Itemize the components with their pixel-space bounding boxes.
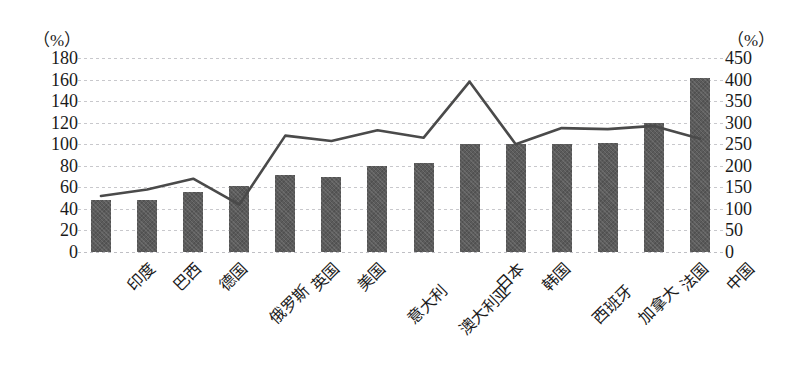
plot-area	[78, 58, 723, 252]
axis-tick-label: 0	[725, 243, 734, 261]
category-label: 俄罗斯	[267, 282, 312, 327]
right-axis-ticks: 450400350300250200150100500	[725, 0, 771, 370]
category-axis-labels: 印度巴西德国俄罗斯英国美国意大利澳大利亚日本韩国西班牙加拿大法国中国	[78, 252, 723, 370]
axis-tick-label: 250	[725, 135, 752, 153]
axis-tick-label: 40	[60, 200, 78, 218]
category-label: 加拿大	[636, 282, 681, 327]
axis-tick-label: 100	[725, 200, 752, 218]
axis-tick-label: 300	[725, 114, 752, 132]
line-series	[78, 58, 723, 252]
axis-tick-label: 100	[51, 135, 78, 153]
axis-tick-label: 0	[69, 243, 78, 261]
axis-tick-label: 160	[51, 71, 78, 89]
axis-tick-label: 350	[725, 92, 752, 110]
category-label: 印度	[124, 260, 158, 294]
axis-tick-label: 180	[51, 49, 78, 67]
axis-tick-label: 20	[60, 221, 78, 239]
category-label: 西班牙	[590, 282, 635, 327]
axis-tick-label: 120	[51, 114, 78, 132]
axis-tick-label: 450	[725, 49, 752, 67]
axis-tick-label: 80	[60, 157, 78, 175]
category-label: 德国	[217, 260, 251, 294]
axis-tick-label: 200	[725, 157, 752, 175]
axis-tick-label: 150	[725, 178, 752, 196]
axis-tick-label: 50	[725, 221, 743, 239]
category-label: 法国	[677, 260, 711, 294]
category-label: 英国	[309, 260, 343, 294]
category-label: 意大利	[406, 282, 451, 327]
axis-tick-label: 400	[725, 71, 752, 89]
axis-tick-label: 60	[60, 178, 78, 196]
category-label: 巴西	[170, 260, 204, 294]
line-series-path	[101, 82, 700, 205]
category-label: 美国	[355, 260, 389, 294]
chart-container: （%） （%） 180160140120100806040200 4504003…	[0, 0, 807, 370]
category-label: 韩国	[539, 260, 573, 294]
left-axis-ticks: 180160140120100806040200	[32, 0, 78, 370]
axis-tick-label: 140	[51, 92, 78, 110]
